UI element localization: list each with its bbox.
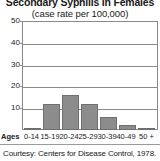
x-tick-label-0-14: 0-14 — [22, 132, 41, 141]
x-tick-label-50-plus: 50 + — [136, 132, 157, 141]
x-axis: Ages 0-14 15-19 20-24 25-29 30-39 40-49 … — [0, 131, 160, 142]
footer-divider — [0, 144, 160, 145]
bar-0-14 — [24, 128, 41, 130]
x-tick-label-40-49: 40-49 — [116, 132, 136, 141]
x-axis-label: Ages — [1, 132, 19, 141]
bar-30-39 — [100, 117, 117, 130]
bar-25-29 — [81, 104, 98, 130]
y-tick-label-20: 20 — [0, 82, 20, 90]
x-tick-label-25-29: 25-29 — [78, 132, 98, 141]
x-tick-label-15-19: 15-19 — [40, 132, 60, 141]
chart-figure: Secondary Syphilis in Females (case rate… — [0, 0, 160, 161]
y-axis: 50 40 30 20 10 — [0, 21, 20, 130]
y-tick-label-30: 30 — [0, 61, 20, 69]
y-tick-label-40: 40 — [0, 39, 20, 47]
bar-20-24 — [62, 95, 79, 130]
chart-subtitle: (case rate per 100,000) — [0, 8, 160, 20]
bar-15-19 — [43, 104, 60, 130]
source-credit: Courtesy: Centers for Disease Control, 1… — [3, 148, 156, 159]
x-tick-label-20-24: 20-24 — [59, 132, 79, 141]
bar-series — [22, 21, 158, 130]
bar-40-49 — [119, 125, 136, 131]
y-tick-label-50: 50 — [0, 17, 20, 25]
x-tick-label-30-39: 30-39 — [97, 132, 117, 141]
y-tick-label-10: 10 — [0, 104, 20, 112]
bar-50-plus — [138, 128, 155, 130]
chart-title: Secondary Syphilis in Females — [0, 0, 160, 8]
